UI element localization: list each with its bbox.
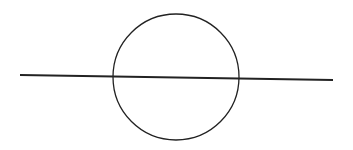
diagram-canvas [0,0,353,150]
secant-line [20,75,333,80]
